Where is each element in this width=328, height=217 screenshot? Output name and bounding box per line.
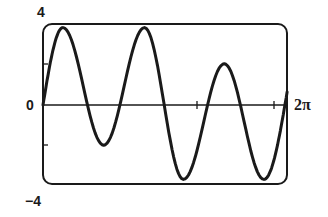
origin-label: 0: [26, 98, 34, 112]
y-axis-max-label: 4: [37, 5, 45, 19]
curve-series: [43, 28, 287, 180]
y-axis-min-label: −4: [25, 194, 41, 208]
graph-plot: [0, 0, 328, 217]
x-axis-max-label: 2π: [294, 97, 311, 113]
